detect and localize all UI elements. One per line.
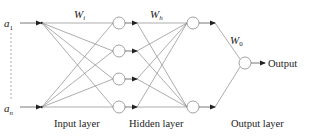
hidden2-node-1 [187,17,199,29]
hidden-layer-label: Hidden layer [129,118,184,129]
hidden-to-hidden-edges [137,23,187,107]
output-node [239,57,251,69]
hidden1-node-2 [113,45,125,57]
input-an-label: an [4,102,14,117]
weight-wi-label: Wi [74,8,85,22]
hidden1-node-4 [113,101,125,113]
hidden1-node-3 [113,73,125,85]
hidden1-node-1 [113,17,125,29]
hidden2-node-2 [187,101,199,113]
output-label: Output [268,58,297,69]
weight-w0-label: W0 [230,34,243,48]
weight-wh-label: Wh [150,8,163,22]
hidden-to-output-edge [215,67,240,107]
input-a1-label: a1 [4,17,14,32]
output-layer-label: Output layer [231,118,284,129]
neural-network-diagram: a1 an [0,0,309,136]
input-layer-label: Input layer [54,118,100,129]
input-to-hidden-edges [42,23,113,107]
